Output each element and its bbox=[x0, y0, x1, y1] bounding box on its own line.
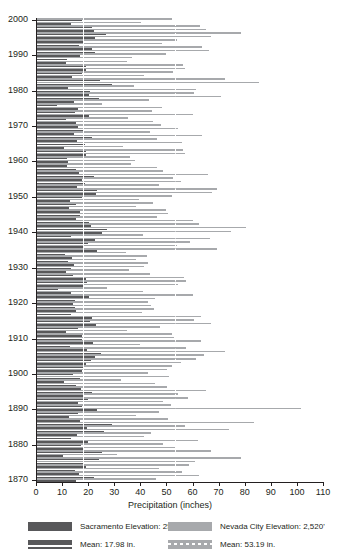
year-row bbox=[36, 468, 323, 472]
year-row bbox=[36, 110, 323, 114]
bar-sacramento bbox=[36, 130, 84, 132]
year-row bbox=[36, 443, 323, 447]
year-row bbox=[36, 372, 323, 376]
year-row bbox=[36, 376, 323, 380]
year-row bbox=[36, 184, 323, 188]
bar-sacramento bbox=[36, 84, 112, 86]
year-row bbox=[36, 68, 323, 72]
year-row bbox=[36, 330, 323, 334]
year-row bbox=[36, 29, 323, 33]
plot-area bbox=[36, 18, 323, 482]
bar-sacramento bbox=[36, 144, 85, 146]
x-tick-label: 30 bbox=[102, 487, 126, 497]
bar-sacramento bbox=[36, 282, 87, 284]
bar-sacramento bbox=[36, 179, 82, 181]
bar-sacramento bbox=[36, 94, 89, 96]
year-row bbox=[36, 89, 323, 93]
year-row bbox=[36, 202, 323, 206]
year-row bbox=[36, 160, 323, 164]
year-row bbox=[36, 383, 323, 387]
bar-sacramento bbox=[36, 285, 83, 287]
legend-label-nevada-city-mean: Mean: 53.19 in. bbox=[220, 540, 275, 549]
year-row bbox=[36, 124, 323, 128]
bar-sacramento bbox=[36, 193, 96, 195]
year-row bbox=[36, 259, 323, 263]
year-row bbox=[36, 25, 323, 29]
bar-sacramento bbox=[36, 431, 104, 433]
year-row bbox=[36, 241, 323, 245]
year-row bbox=[36, 61, 323, 65]
year-row bbox=[36, 457, 323, 461]
year-row bbox=[36, 312, 323, 316]
legend-label-sacramento-mean: Mean: 17.98 in. bbox=[80, 540, 135, 549]
bar-sacramento bbox=[36, 119, 66, 121]
y-tick-label: 1920 bbox=[8, 298, 28, 307]
bar-sacramento bbox=[36, 190, 97, 192]
legend-row-means: Mean: 17.98 in. Mean: 53.19 in. bbox=[0, 537, 340, 551]
bar-sacramento bbox=[36, 275, 73, 277]
y-tick-label: 2000 bbox=[8, 15, 28, 24]
bar-sacramento bbox=[36, 172, 79, 174]
y-tick bbox=[32, 197, 36, 198]
year-row bbox=[36, 429, 323, 433]
bar-sacramento bbox=[36, 353, 101, 355]
bar-sacramento bbox=[36, 310, 76, 312]
bar-sacramento bbox=[36, 215, 80, 217]
bar-sacramento bbox=[36, 154, 86, 156]
bar-sacramento bbox=[36, 23, 71, 25]
year-row bbox=[36, 450, 323, 454]
y-tick-label: 1910 bbox=[8, 334, 28, 343]
bar-sacramento bbox=[36, 183, 85, 185]
bar-sacramento bbox=[36, 455, 63, 457]
bar-sacramento bbox=[36, 300, 75, 302]
y-tick-label: 1950 bbox=[8, 192, 28, 201]
year-row bbox=[36, 92, 323, 96]
year-row bbox=[36, 146, 323, 150]
legend-label-nevada-city: Nevada City Elevation: 2,520' bbox=[220, 522, 325, 531]
bar-sacramento bbox=[36, 232, 102, 234]
x-tick-label: 80 bbox=[233, 487, 257, 497]
bar-sacramento bbox=[36, 126, 78, 128]
year-row bbox=[36, 411, 323, 415]
year-row bbox=[36, 475, 323, 479]
x-tick-label: 90 bbox=[259, 487, 283, 497]
bar-sacramento bbox=[36, 434, 77, 436]
chart-legend: Sacramento Elevation: 25' Nevada City El… bbox=[0, 519, 340, 555]
year-row bbox=[36, 323, 323, 327]
x-tick bbox=[271, 482, 272, 486]
x-tick bbox=[297, 482, 298, 486]
bar-sacramento bbox=[36, 239, 95, 241]
bar-sacramento bbox=[36, 466, 86, 468]
bar-sacramento bbox=[36, 292, 71, 294]
bar-sacramento bbox=[36, 331, 66, 333]
y-tick-label: 1960 bbox=[8, 156, 28, 165]
bar-sacramento bbox=[36, 200, 70, 202]
year-row bbox=[36, 131, 323, 135]
x-tick bbox=[166, 482, 167, 486]
bar-sacramento bbox=[36, 66, 86, 68]
year-row bbox=[36, 333, 323, 337]
bar-sacramento bbox=[36, 105, 57, 107]
bar-sacramento bbox=[36, 388, 81, 390]
year-row bbox=[36, 142, 323, 146]
year-row bbox=[36, 301, 323, 305]
year-row bbox=[36, 128, 323, 132]
year-row bbox=[36, 99, 323, 103]
precipitation-chart: 1870188018901900191019201930194019501960… bbox=[0, 0, 340, 555]
year-row bbox=[36, 401, 323, 405]
bar-sacramento bbox=[36, 477, 94, 479]
bar-sacramento bbox=[36, 115, 89, 117]
year-row bbox=[36, 85, 323, 89]
year-row bbox=[36, 156, 323, 160]
bar-sacramento bbox=[36, 257, 72, 259]
year-row bbox=[36, 294, 323, 298]
bar-sacramento bbox=[36, 459, 99, 461]
year-row bbox=[36, 82, 323, 86]
year-row bbox=[36, 103, 323, 107]
year-row bbox=[36, 461, 323, 465]
year-row bbox=[36, 53, 323, 57]
year-row bbox=[36, 248, 323, 252]
bar-sacramento bbox=[36, 80, 100, 82]
year-row bbox=[36, 362, 323, 366]
bar-sacramento bbox=[36, 335, 82, 337]
